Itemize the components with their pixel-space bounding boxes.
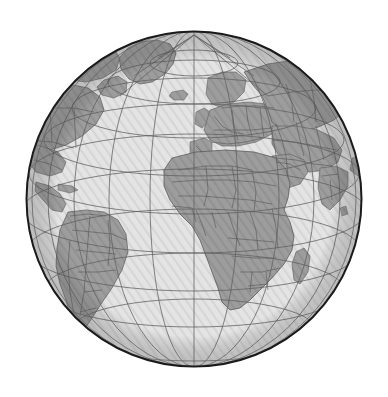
globe-figure: Orthographic globe projection [0, 0, 388, 397]
globe-map-svg [0, 0, 388, 397]
limb-shading [27, 32, 362, 367]
